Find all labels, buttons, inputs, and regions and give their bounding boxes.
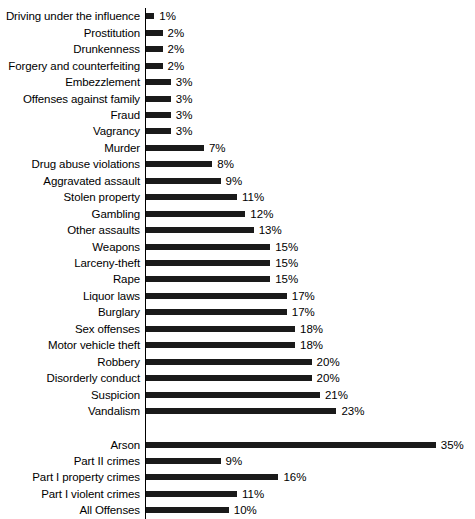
chart-row: All Offenses10% [0, 502, 475, 519]
bar-value-label: 7% [209, 142, 226, 154]
bar [146, 161, 212, 167]
chart-row: Embezzlement3% [0, 74, 475, 91]
bar-value-label: 11% [242, 191, 264, 203]
bar-group: 3% [146, 112, 192, 118]
chart-row: Murder7% [0, 140, 475, 157]
bar [146, 442, 436, 448]
bar [146, 359, 312, 365]
chart-row: Liquor laws17% [0, 288, 475, 305]
bar-group: 2% [146, 63, 184, 69]
chart-row: Drunkenness2% [0, 41, 475, 58]
bar-group: 12% [146, 211, 273, 217]
bar-value-label: 17% [292, 290, 315, 302]
category-label: Stolen property [0, 191, 140, 203]
bar-group: 2% [146, 46, 184, 52]
category-label: Murder [0, 142, 140, 154]
bar [146, 507, 229, 513]
bar [146, 474, 278, 480]
category-label: Drug abuse violations [0, 158, 140, 170]
bar-group: 15% [146, 244, 298, 250]
bar [146, 408, 336, 414]
bar-value-label: 21% [325, 389, 348, 401]
category-label: Sex offenses [0, 323, 140, 335]
chart-row: Larceny-theft15% [0, 255, 475, 272]
bar [146, 458, 221, 464]
category-label: Rape [0, 273, 140, 285]
bar-group: 3% [146, 128, 192, 134]
bar-group: 1% [146, 13, 176, 19]
category-label: Part I property crimes [0, 471, 140, 483]
category-label: Forgery and counterfeiting [0, 60, 140, 72]
bar-group: 3% [146, 79, 192, 85]
bar-group: 17% [146, 309, 315, 315]
chart-row: Sex offenses18% [0, 321, 475, 338]
bar-value-label: 16% [283, 471, 306, 483]
category-label: Other assaults [0, 224, 140, 236]
bar-group: 10% [146, 507, 257, 513]
bar-group: 18% [146, 342, 323, 348]
bar [146, 46, 163, 52]
chart-row: Drug abuse violations8% [0, 156, 475, 173]
bar [146, 276, 270, 282]
bar-group: 15% [146, 276, 298, 282]
chart-row: Other assaults13% [0, 222, 475, 239]
chart-row: Suspicion21% [0, 386, 475, 403]
bar-value-label: 10% [234, 504, 257, 516]
bar [146, 342, 295, 348]
bar [146, 244, 270, 250]
bar-value-label: 9% [226, 455, 243, 467]
bar-group: 21% [146, 392, 348, 398]
bar [146, 63, 163, 69]
chart-row: Prostitution2% [0, 24, 475, 41]
bar [146, 30, 163, 36]
bar-value-label: 9% [226, 175, 243, 187]
bar-value-label: 23% [341, 405, 364, 417]
bar-value-label: 3% [176, 109, 193, 121]
chart-row: Burglary17% [0, 304, 475, 321]
category-label: Part II crimes [0, 455, 140, 467]
category-label: Vandalism [0, 405, 140, 417]
bar-group: 8% [146, 161, 234, 167]
bar-value-label: 2% [168, 27, 185, 39]
bar-value-label: 15% [275, 273, 298, 285]
chart-row: Disorderly conduct20% [0, 370, 475, 387]
category-label: Disorderly conduct [0, 372, 140, 384]
bar-value-label: 2% [168, 60, 185, 72]
bar-group: 18% [146, 326, 323, 332]
bar-value-label: 11% [242, 488, 264, 500]
chart-row: Forgery and counterfeiting2% [0, 57, 475, 74]
chart-row: Aggravated assault9% [0, 173, 475, 190]
chart-row: Rape15% [0, 271, 475, 288]
chart-row: Weapons15% [0, 238, 475, 255]
bar-group: 9% [146, 178, 242, 184]
category-label: Vagrancy [0, 125, 140, 137]
bar-group: 16% [146, 474, 307, 480]
bar-value-label: 15% [275, 241, 298, 253]
category-label: Gambling [0, 208, 140, 220]
bar-group: 13% [146, 227, 282, 233]
category-label: Suspicion [0, 389, 140, 401]
bar [146, 375, 312, 381]
bar [146, 211, 245, 217]
chart-row: Part I violent crimes11% [0, 486, 475, 503]
bar-value-label: 2% [168, 43, 185, 55]
category-label: Driving under the influence [0, 10, 140, 22]
category-label: Part I violent crimes [0, 488, 140, 500]
chart-row: Part I property crimes16% [0, 469, 475, 486]
bar [146, 260, 270, 266]
category-label: Embezzlement [0, 76, 140, 88]
category-label: Offenses against family [0, 93, 140, 105]
category-label: Burglary [0, 306, 140, 318]
bar-group: 20% [146, 359, 340, 365]
bar-value-label: 1% [159, 10, 176, 22]
bar-group: 15% [146, 260, 298, 266]
chart-row: Arson35% [0, 436, 475, 453]
bar-value-label: 18% [300, 339, 323, 351]
chart-row: Driving under the influence1% [0, 8, 475, 25]
category-label: All Offenses [0, 504, 140, 516]
category-label: Drunkenness [0, 43, 140, 55]
chart-row: Robbery20% [0, 353, 475, 370]
bar [146, 491, 237, 497]
chart-row: Stolen property11% [0, 189, 475, 206]
